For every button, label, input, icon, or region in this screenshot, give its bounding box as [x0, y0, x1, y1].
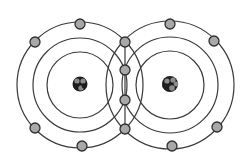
- electron: [75, 19, 85, 29]
- electron: [30, 37, 40, 47]
- shared-electron: [120, 65, 130, 75]
- electron: [30, 123, 40, 133]
- electron: [212, 122, 222, 132]
- covalent-bond-diagram: [0, 0, 248, 159]
- electron: [167, 141, 177, 151]
- electron: [165, 19, 175, 29]
- shared-electron: [120, 124, 130, 134]
- shared-electron: [120, 95, 130, 105]
- left-nucleus: [73, 77, 88, 92]
- electron: [77, 141, 87, 151]
- right-nucleus: [162, 76, 178, 92]
- electron: [209, 36, 219, 46]
- shared-electron: [120, 37, 130, 47]
